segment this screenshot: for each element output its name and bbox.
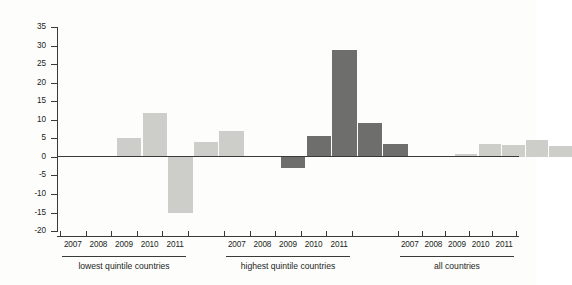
plot-area — [57, 27, 519, 231]
y-axis-tick-label: -15 — [18, 209, 46, 217]
x-axis-tick — [275, 231, 276, 236]
y-axis-tick-label: 25 — [18, 60, 46, 68]
x-axis-tick — [137, 231, 138, 236]
group-label: highest quintile countries — [204, 261, 372, 271]
x-axis-tick — [250, 231, 251, 236]
x-axis-tick — [111, 231, 112, 236]
zero-baseline — [57, 156, 519, 157]
x-axis-tick — [516, 231, 517, 236]
y-axis-tick-label: -10 — [18, 190, 46, 198]
x-axis-tick-label: 2011 — [489, 240, 519, 249]
x-axis-tick — [445, 231, 446, 236]
y-axis-tick-label: 15 — [18, 97, 46, 105]
bar — [526, 140, 548, 157]
bar — [143, 113, 167, 156]
bar — [219, 131, 243, 157]
x-axis-tick — [352, 231, 353, 236]
bar — [358, 123, 382, 157]
x-axis-line — [57, 236, 519, 237]
group-rule — [226, 256, 350, 257]
bar — [479, 144, 501, 157]
bar — [117, 138, 141, 157]
x-axis-tick — [492, 231, 493, 236]
group-rule — [400, 256, 514, 257]
group-label: lowest quintile countries — [40, 261, 208, 271]
x-axis-tick — [86, 231, 87, 236]
y-axis-tick-label: 20 — [18, 79, 46, 87]
bar — [168, 157, 192, 213]
x-axis-tick — [422, 231, 423, 236]
x-axis-tick — [60, 231, 61, 236]
x-axis-tick — [326, 231, 327, 236]
bar — [549, 146, 571, 157]
y-axis-tick-label: 5 — [18, 134, 46, 142]
x-axis-tick — [301, 231, 302, 236]
y-axis-tick-label: 30 — [18, 42, 46, 50]
bar — [307, 136, 331, 157]
y-axis-tick-label: 35 — [18, 23, 46, 31]
x-axis-tick-label: 2011 — [323, 240, 355, 249]
x-axis-tick — [162, 231, 163, 236]
group-label: all countries — [378, 261, 536, 271]
y-axis-tick-label: -5 — [18, 171, 46, 179]
x-axis-tick — [398, 231, 399, 236]
x-axis-tick — [188, 231, 189, 236]
bar — [383, 144, 407, 157]
y-axis-tick-label: 10 — [18, 116, 46, 124]
y-axis-tick-label: 0 — [18, 153, 46, 161]
x-axis-tick-label: 2011 — [159, 240, 191, 249]
bar — [194, 142, 218, 157]
bar — [502, 145, 524, 157]
group-rule — [62, 256, 186, 257]
x-axis-tick — [469, 231, 470, 236]
bar — [281, 157, 305, 168]
y-axis-tick-label: -20 — [18, 227, 46, 235]
x-axis-tick — [224, 231, 225, 236]
bar — [332, 50, 356, 157]
